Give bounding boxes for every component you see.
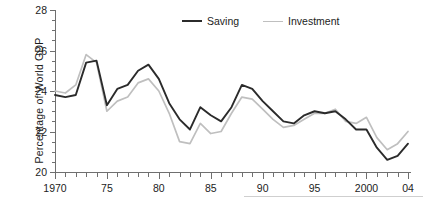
x-tick-minor	[190, 173, 191, 177]
x-tick-label: 90	[257, 182, 269, 194]
x-tick-minor	[398, 173, 399, 177]
x-tick-minor	[294, 173, 295, 177]
legend-line-swatch	[182, 20, 202, 22]
x-tick-minor	[304, 173, 305, 177]
x-tick-minor	[117, 173, 118, 177]
x-tick-minor	[356, 173, 357, 177]
x-tick-minor	[325, 173, 326, 177]
legend-label: Saving	[207, 15, 239, 27]
x-tick-minor	[180, 173, 181, 177]
x-tick-minor	[65, 173, 66, 177]
x-tick-major	[366, 173, 367, 179]
x-tick-major	[211, 173, 212, 179]
x-tick-minor	[232, 173, 233, 177]
x-tick-major	[107, 173, 108, 179]
x-axis-ticks: 19707580859095200004	[0, 173, 423, 187]
x-tick-minor	[377, 173, 378, 177]
legend-line-swatch	[263, 21, 283, 22]
x-tick-label: 80	[153, 182, 165, 194]
x-tick-major	[55, 173, 56, 179]
legend-label: Investment	[288, 15, 339, 27]
chart-legend: SavingInvestment	[182, 15, 339, 27]
x-tick-minor	[242, 173, 243, 177]
x-tick-label: 04	[402, 182, 414, 194]
legend-entry-saving[interactable]: Saving	[182, 15, 239, 27]
x-tick-minor	[200, 173, 201, 177]
x-tick-major	[315, 173, 316, 179]
x-tick-minor	[86, 173, 87, 177]
x-tick-minor	[221, 173, 222, 177]
x-tick-major	[263, 173, 264, 179]
x-tick-minor	[283, 173, 284, 177]
x-tick-label: 1970	[43, 182, 66, 194]
x-tick-major	[159, 173, 160, 179]
x-tick-minor	[169, 173, 170, 177]
x-tick-label: 95	[309, 182, 321, 194]
x-tick-major	[408, 173, 409, 179]
x-tick-minor	[148, 173, 149, 177]
x-tick-minor	[346, 173, 347, 177]
x-tick-minor	[97, 173, 98, 177]
series-plot-area	[0, 0, 423, 201]
x-tick-label: 75	[101, 182, 113, 194]
x-tick-minor	[252, 173, 253, 177]
x-tick-minor	[138, 173, 139, 177]
x-tick-minor	[387, 173, 388, 177]
x-tick-label: 85	[205, 182, 217, 194]
x-tick-minor	[76, 173, 77, 177]
x-tick-minor	[273, 173, 274, 177]
legend-entry-investment[interactable]: Investment	[263, 15, 339, 27]
x-tick-minor	[335, 173, 336, 177]
x-tick-label: 2000	[355, 182, 378, 194]
x-tick-minor	[128, 173, 129, 177]
chart-figure: Percentage of World GDP 2022242628 19707…	[0, 0, 423, 201]
footer-divider	[244, 196, 423, 197]
